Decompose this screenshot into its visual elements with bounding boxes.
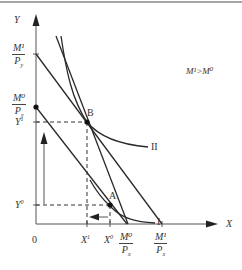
y-axis-arrow-icon: [33, 14, 40, 26]
x0-label: X0: [104, 235, 113, 245]
curve-i-label: I: [157, 217, 160, 227]
curve-ii-label: II: [151, 142, 158, 152]
y-intercept-m1: M¹ Py: [12, 43, 25, 68]
left-arrow-icon: [89, 214, 99, 221]
point-b-label: B: [87, 108, 94, 118]
up-arrow-icon: [41, 132, 48, 144]
point-a-label: A: [109, 191, 116, 201]
point-m0-py: [33, 104, 38, 109]
point-b: [84, 119, 89, 124]
y1-label: Y1: [15, 117, 24, 127]
y-intercept-m0: M⁰ Py: [12, 93, 26, 118]
budget-line-m0: [36, 107, 127, 224]
point-a: [107, 202, 112, 207]
budget-line-m1: [36, 54, 162, 224]
x1-label: X1: [81, 235, 90, 245]
y0-label: Y0: [15, 200, 24, 210]
x-intercept-m1: M¹ Px: [154, 232, 167, 257]
origin-label: 0: [32, 235, 37, 245]
steep-line: [56, 36, 128, 224]
x-intercept-m0: M⁰ Px: [119, 232, 133, 257]
indifference-curve-ii: [61, 36, 148, 147]
income-effect-diagram: [0, 0, 242, 270]
x-axis-arrow-icon: [206, 221, 218, 228]
condition-label: M¹>M⁰: [186, 67, 213, 76]
y-axis-label: Y: [14, 15, 20, 25]
x-axis-label: X: [226, 219, 232, 229]
